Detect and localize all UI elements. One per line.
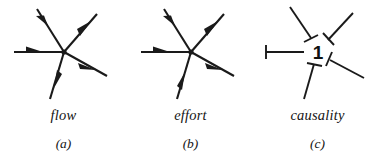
bond-upper-left-arrowhead: [163, 16, 175, 27]
bond-graph-flow: [0, 0, 127, 106]
bond-upper-left-arrowhead: [36, 16, 48, 27]
bond-lower-left-arrowhead: [177, 72, 185, 90]
bond-upper-right-arrowhead: [77, 21, 91, 36]
caption-name-effort: effort: [127, 106, 254, 124]
bond-lower-right-line: [330, 60, 364, 78]
bond-graph-effort: [127, 0, 254, 106]
bond-upper-right-arrowhead: [204, 21, 218, 36]
caption-name-flow: flow: [0, 106, 127, 124]
junction-dot: [188, 49, 193, 54]
bond-west-arrowhead: [153, 47, 170, 53]
bond-lower-right-line: [191, 52, 234, 76]
causal-stroke-upper-left: [304, 35, 318, 42]
causal-stroke-lower-right: [326, 52, 332, 66]
panel-causality: 1 causality (c): [254, 0, 381, 166]
bond-upper-left-line: [164, 9, 191, 52]
figure-root: flow (a): [0, 0, 381, 166]
bond-upper-right-line: [328, 13, 353, 40]
caption-label-causality: (c): [254, 136, 381, 152]
bond-upper-left-line: [37, 9, 64, 52]
caption-label-effort: (b): [127, 136, 254, 152]
bond-upper-left-line: [290, 7, 311, 38]
bond-lower-left-line: [304, 64, 314, 99]
bond-graph-causality: 1: [254, 0, 381, 106]
panel-flow: flow (a): [0, 0, 127, 166]
junction-symbol-1: 1: [313, 42, 324, 63]
caption-name-causality: causality: [254, 106, 381, 124]
bond-lower-right-line: [64, 52, 107, 76]
caption-label-flow: (a): [0, 136, 127, 152]
junction-dot: [61, 49, 66, 54]
panel-effort: effort (b): [127, 0, 254, 166]
